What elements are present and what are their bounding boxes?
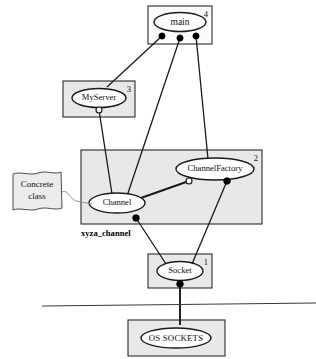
port-main-left[interactable] (159, 33, 165, 39)
component-diagram-canvas: 4 main 3 MyServer 2 1 Socket (0, 0, 316, 359)
xyza-channel-label: xyza_channel (81, 228, 131, 238)
connector-main-to-channelfactory (196, 36, 208, 159)
port-main-right[interactable] (193, 33, 199, 39)
concrete-class-note-line2: class (28, 191, 46, 201)
port-main-center[interactable] (177, 35, 183, 41)
component-channel-container-number: 2 (254, 153, 258, 163)
component-os-sockets-label: OS SOCKETS (149, 333, 204, 343)
concrete-class-note[interactable]: Concrete class (13, 172, 92, 210)
port-myserver-bottom[interactable] (96, 107, 102, 113)
port-channelfactory-left[interactable] (186, 178, 192, 184)
component-socket-number: 1 (204, 257, 208, 267)
component-main-label: main (171, 17, 190, 27)
hardware-boundary-divider (42, 303, 316, 306)
concrete-class-note-line1: Concrete (21, 179, 53, 189)
node-channelfactory-label: ChannelFactory (188, 163, 244, 173)
node-channel-label: Channel (103, 197, 132, 207)
connector-main-to-myserver (107, 36, 162, 87)
component-myserver-number: 3 (127, 84, 131, 94)
component-os-sockets[interactable]: OS SOCKETS (128, 320, 225, 356)
component-myserver-label: MyServer (82, 92, 117, 102)
port-channel-bottom[interactable] (133, 215, 140, 222)
node-channelfactory[interactable]: ChannelFactory (176, 158, 254, 180)
node-channel[interactable]: Channel (89, 193, 145, 213)
component-socket-label: Socket (168, 265, 192, 275)
uml-component-diagram: 4 main 3 MyServer 2 1 Socket (0, 0, 316, 359)
port-socket-bottom[interactable] (177, 281, 184, 288)
port-channelfactory-right[interactable] (224, 178, 231, 185)
